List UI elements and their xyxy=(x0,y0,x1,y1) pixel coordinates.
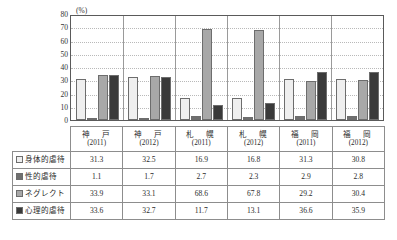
bar xyxy=(213,105,223,121)
legend-label-text: ネグレクト xyxy=(25,189,65,198)
table-cell: 2.3 xyxy=(227,169,279,186)
table-cell: 36.6 xyxy=(280,203,332,220)
bar xyxy=(87,118,97,120)
table-cell: 30.8 xyxy=(332,152,384,169)
bar xyxy=(254,30,264,120)
bar xyxy=(98,75,108,120)
table-cell: 16.8 xyxy=(227,152,279,169)
bar-group xyxy=(227,16,279,120)
bar-group xyxy=(175,16,227,120)
column-year: (2012) xyxy=(333,139,384,149)
table-cell: 13.1 xyxy=(227,203,279,220)
table-cell: 2.8 xyxy=(332,169,384,186)
table-cell: 11.7 xyxy=(175,203,227,220)
y-tick-label: 20 xyxy=(24,91,68,99)
bar xyxy=(306,81,316,120)
bar-group xyxy=(279,16,331,120)
legend-swatch-icon xyxy=(16,173,23,180)
column-year: (2011) xyxy=(280,139,331,149)
table-row: 性的虐待1.11.72.72.32.92.8 xyxy=(13,169,385,186)
table-cell: 1.1 xyxy=(71,169,123,186)
y-tick-label: 80 xyxy=(24,11,68,19)
table-cell: 31.3 xyxy=(71,152,123,169)
table-cell: 33.1 xyxy=(123,186,175,203)
table-row: 心理的虐待33.632.711.713.136.635.9 xyxy=(13,203,385,220)
bar-group xyxy=(71,16,123,120)
y-axis-tick-labels: 80706050403020100 xyxy=(12,15,68,121)
bar xyxy=(369,72,379,120)
column-year: (2011) xyxy=(176,139,227,149)
bar xyxy=(358,80,368,120)
legend-label-text: 心理的虐待 xyxy=(25,206,65,215)
bar xyxy=(347,116,357,120)
plot-area xyxy=(70,15,384,121)
table-cell: 32.5 xyxy=(123,152,175,169)
column-city-name: 福 岡 xyxy=(333,130,384,140)
legend-row-label: ネグレクト xyxy=(13,186,71,203)
legend-swatch-icon xyxy=(16,156,23,163)
y-tick-label: 0 xyxy=(24,117,68,125)
bar xyxy=(336,79,346,120)
table-column-header: 神 戸(2012) xyxy=(123,127,175,152)
bar-groups xyxy=(71,16,383,120)
bar xyxy=(317,72,327,120)
plot-wrap xyxy=(70,15,384,121)
legend-swatch-icon xyxy=(16,190,23,197)
table-header-row: 神 戸(2011)神 戸(2012)札 幌(2011)札 幌(2012)福 岡(… xyxy=(13,127,385,152)
legend-row-label: 心理的虐待 xyxy=(13,203,71,220)
table-body: 身体的虐待31.332.516.916.831.330.8性的虐待1.11.72… xyxy=(13,152,385,220)
bar-group xyxy=(331,16,383,120)
bar xyxy=(265,103,275,120)
column-year: (2012) xyxy=(228,139,279,149)
legend-label-text: 性的虐待 xyxy=(25,172,57,181)
bar xyxy=(243,117,253,120)
table-cell: 68.6 xyxy=(175,186,227,203)
bar xyxy=(161,77,171,120)
column-city-name: 神 戸 xyxy=(71,130,122,140)
column-city-name: 福 岡 xyxy=(280,130,331,140)
table-row: ネグレクト33.933.168.667.829.230.4 xyxy=(13,186,385,203)
y-tick-label: 50 xyxy=(24,51,68,59)
column-city-name: 札 幌 xyxy=(228,130,279,140)
column-city-name: 神 戸 xyxy=(123,130,174,140)
table-head: 神 戸(2011)神 戸(2012)札 幌(2011)札 幌(2012)福 岡(… xyxy=(13,127,385,152)
column-year: (2011) xyxy=(71,139,122,149)
bar xyxy=(191,116,201,120)
table-column-header: 神 戸(2011) xyxy=(71,127,123,152)
column-city-name: 札 幌 xyxy=(176,130,227,140)
legend-row-label: 身体的虐待 xyxy=(13,152,71,169)
y-tick-label: 60 xyxy=(24,38,68,46)
y-tick-label: 70 xyxy=(24,24,68,32)
table-column-header: 福 岡(2012) xyxy=(332,127,384,152)
bar xyxy=(109,75,119,120)
bar xyxy=(76,79,86,120)
table-cell: 29.2 xyxy=(280,186,332,203)
table-cell: 33.6 xyxy=(71,203,123,220)
table-cell: 16.9 xyxy=(175,152,227,169)
table-cell: 35.9 xyxy=(332,203,384,220)
bar xyxy=(284,79,294,120)
bar xyxy=(202,29,212,120)
bar xyxy=(295,116,305,120)
y-tick-label: 30 xyxy=(24,77,68,85)
bar xyxy=(150,76,160,120)
table-cell: 32.7 xyxy=(123,203,175,220)
y-tick-label: 10 xyxy=(24,104,68,112)
y-tick-label: 40 xyxy=(24,64,68,72)
bar xyxy=(139,118,149,120)
table-cell: 2.7 xyxy=(175,169,227,186)
figure-root: (%) 80706050403020100 神 戸(2011)神 戸(2012)… xyxy=(0,0,397,240)
data-table: 神 戸(2011)神 戸(2012)札 幌(2011)札 幌(2012)福 岡(… xyxy=(12,126,385,220)
bar xyxy=(232,98,242,120)
table-cell: 1.7 xyxy=(123,169,175,186)
table-cell: 33.9 xyxy=(71,186,123,203)
legend-swatch-icon xyxy=(16,207,23,214)
table-cell: 31.3 xyxy=(280,152,332,169)
bar-group xyxy=(123,16,175,120)
y-axis-unit-label: (%) xyxy=(76,6,87,15)
bar xyxy=(180,98,190,120)
legend-label-text: 身体的虐待 xyxy=(25,155,65,164)
table-cell: 30.4 xyxy=(332,186,384,203)
table-cell: 67.8 xyxy=(227,186,279,203)
table-corner-cell xyxy=(13,127,71,152)
